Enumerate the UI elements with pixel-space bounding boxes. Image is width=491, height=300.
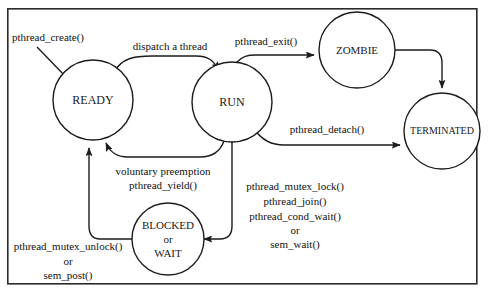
label-block-calls-line5: sem_wait() [270, 238, 320, 251]
edge-run-to-ready [106, 141, 224, 157]
terminated-label: TERMINATED [410, 125, 474, 136]
label-block-calls-line4: or [290, 224, 300, 236]
edge-zombie-to-terminated [395, 50, 442, 88]
label-pthread-create: pthread_create() [12, 31, 84, 44]
diagram-canvas: READY RUN ZOMBIE TERMINATED BLOCKED or W… [0, 0, 491, 300]
label-block-calls-line2: pthread_join() [264, 195, 327, 208]
label-pthread-detach: pthread_detach() [290, 123, 365, 136]
zombie-label: ZOMBIE [336, 44, 378, 56]
state-node-run[interactable]: RUN [192, 62, 272, 142]
pthread-state-diagram: READY RUN ZOMBIE TERMINATED BLOCKED or W… [0, 0, 491, 300]
blocked-label-line2: or [163, 233, 173, 245]
blocked-label-line1: BLOCKED [142, 219, 194, 231]
run-label: RUN [219, 95, 245, 109]
label-dispatch-a-thread: dispatch a thread [133, 40, 208, 52]
label-voluntary-preemption-line1: voluntary preemption [115, 165, 211, 177]
label-unblock-calls-line3: sem_post() [44, 269, 93, 282]
edge-blocked-to-ready [89, 148, 132, 239]
edge-ready-to-run [114, 56, 219, 72]
label-pthread-exit: pthread_exit() [235, 35, 298, 48]
label-block-calls-line3: pthread_cond_wait() [249, 210, 341, 223]
state-node-zombie[interactable]: ZOMBIE [319, 12, 395, 88]
label-block-calls-line1: pthread_mutex_lock() [246, 180, 344, 193]
state-node-terminated[interactable]: TERMINATED [404, 93, 480, 169]
state-node-ready[interactable]: READY [53, 60, 133, 140]
state-node-blocked[interactable]: BLOCKED or WAIT [132, 203, 204, 275]
edge-run-to-zombie [236, 55, 314, 63]
label-unblock-calls-line2: or [63, 255, 73, 267]
label-unblock-calls-line1: pthread_mutex_unlock() [14, 240, 123, 253]
blocked-label-line3: WAIT [154, 247, 182, 259]
label-voluntary-preemption-line2: pthread_yield() [129, 179, 197, 192]
ready-label: READY [72, 93, 114, 107]
